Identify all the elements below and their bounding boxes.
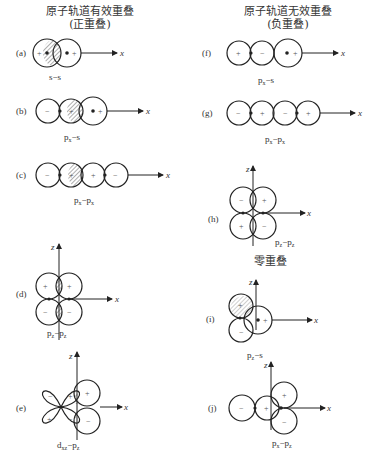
panel-a: (a) + + x s−s [16,39,124,82]
svg-text:x: x [340,48,345,58]
svg-text:−: − [45,107,50,116]
svg-text:+: + [293,49,298,58]
svg-text:−: − [67,308,72,317]
svg-text:+: + [91,171,96,180]
svg-text:+: + [263,316,268,325]
svg-text:−: − [262,222,267,231]
svg-text:x: x [119,48,124,58]
panel-a-caption: s−s [49,72,62,82]
panel-h-caption: pz−pz [275,237,295,248]
panel-j: (j) z − + + − x px−pz [208,360,331,449]
svg-text:+: + [306,109,311,118]
svg-text:+: + [262,196,267,205]
panel-b-label: (b) [16,106,27,116]
svg-text:+: + [47,415,52,424]
svg-text:−: − [68,415,73,424]
svg-text:x: x [145,106,150,116]
panel-i-label: (i) [206,314,215,324]
svg-text:+: + [239,222,244,231]
svg-text:−: − [239,328,244,337]
svg-text:x: x [306,208,311,218]
svg-text:−: − [236,109,241,118]
panel-d-caption: pz−pz [47,328,67,339]
svg-text:−: − [260,49,265,58]
svg-text:+: + [260,109,265,118]
panel-e: (e) z − + + − + − x dxz−pz [16,351,128,451]
svg-text:z: z [263,360,268,370]
svg-text:−: − [239,196,244,205]
svg-text:−: − [283,109,288,118]
svg-text:z: z [50,242,55,252]
svg-text:+: + [67,282,72,291]
svg-text:x: x [165,170,170,180]
svg-text:+: + [69,107,74,116]
svg-text:x: x [326,403,331,413]
panel-i-caption: pz−s [247,350,263,361]
panel-e-caption: dxz−pz [57,440,80,451]
panel-f: (f) bx + − + x px−s [202,39,345,86]
panel-e-label: (e) [16,403,26,413]
panel-a-label: (a) [16,48,26,58]
panel-c-label: (c) [16,170,26,180]
svg-text:+: + [85,389,90,398]
svg-text:+: + [69,171,74,180]
panel-c: (c) − + + − x px−px [16,163,170,206]
svg-text:+: + [264,404,269,413]
svg-text:z: z [248,277,253,287]
svg-text:−: − [239,404,244,413]
panel-j-label: (j) [208,403,217,413]
panel-g-caption: px−px [265,134,285,145]
panel-h: (h) z − + + − x pz−pz [208,164,311,248]
panel-b-caption: px−s [64,132,81,143]
svg-text:−: − [86,417,91,426]
svg-text:+: + [98,107,103,116]
svg-text:+: + [72,49,77,58]
panel-h-label: (h) [208,214,219,224]
svg-text:z: z [245,164,250,174]
svg-text:x: x [357,108,362,118]
svg-text:x: x [114,294,119,304]
svg-text:−: − [113,171,118,180]
svg-text:x: x [123,402,128,412]
panel-j-caption: px−pz [272,438,292,449]
panel-g: (g) − + − + x px−px [202,101,362,145]
svg-text:−: − [282,418,287,427]
svg-text:−: − [48,392,53,401]
svg-text:−: − [45,171,50,180]
panel-f-label: (f) [202,48,211,58]
panel-d: (d) z + + − − x pz−pz [16,242,119,340]
orbital-overlap-diagram: (a) + + x s−s (b) − + + x px−s (c) [0,0,375,457]
svg-text:+: + [68,392,73,401]
svg-text:+: + [43,282,48,291]
svg-text:+: + [238,301,243,310]
svg-text:x: x [313,315,318,325]
panel-b: (b) − + + x px−s [16,97,150,143]
svg-text:+: + [282,391,287,400]
svg-text:z: z [68,351,73,361]
panel-g-label: (g) [202,108,213,118]
panel-i: (i) z + − + x pz−s [206,277,318,361]
svg-text:−: − [43,308,48,317]
svg-text:+: + [37,49,42,58]
panel-f-caption: px−s [258,75,275,86]
svg-text:+: + [236,49,241,58]
panel-c-caption: px−px [74,195,94,206]
panel-d-label: (d) [16,289,27,299]
